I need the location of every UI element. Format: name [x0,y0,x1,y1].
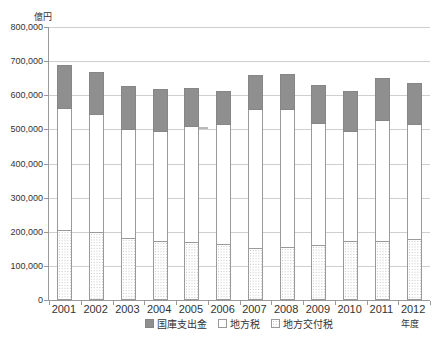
x-axis-year-label: 2006 [205,303,241,315]
bar-segment-white [184,127,199,243]
x-axis-year-label: 2003 [109,303,145,315]
x-axis-year-label: 2007 [236,303,272,315]
x-axis-year-label: 2004 [141,303,177,315]
bar-segment-hatch [57,231,72,300]
gridline [49,232,430,233]
bar-segment-white [216,125,231,245]
gridline [49,129,430,130]
bar-segment-white [153,132,168,242]
bar-segment-gray [343,91,358,132]
legend-item-hatch: 地方交付税 [271,316,333,331]
bar-2008 [280,74,295,300]
bar-2012 [407,83,422,300]
bar-segment-gray [57,65,72,109]
bar-segment-hatch [184,243,199,300]
bar-2003 [121,86,136,300]
legend: 国庫支出金地方税地方交付税 [48,316,429,331]
x-axis-year-label: 2011 [363,303,399,315]
bar-segment-gray [89,72,104,115]
bar-segment-white [248,110,263,249]
bar-segment-white [343,132,358,242]
bar-2006 [216,91,231,300]
y-axis-tick-label: 800,000 [0,22,43,33]
x-axis-year-label: 2009 [300,303,336,315]
y-axis-tick-label: 300,000 [0,193,43,204]
x-axis-year-label: 2008 [268,303,304,315]
bar-segment-hatch [121,239,136,300]
bar-segment-gray [311,85,326,123]
bar-segment-white [121,130,136,239]
x-axis-year-label: 2001 [46,303,82,315]
legend-item-gray: 国庫支出金 [145,316,207,331]
bar-segment-white [280,110,295,248]
bar-2004 [153,89,168,300]
bar-2009 [311,85,326,300]
bar-segment-hatch [407,240,422,300]
bar-segment-gray [375,78,390,121]
x-axis-year-label: 2012 [395,303,431,315]
bar-segment-white [311,124,326,246]
bar-2007 [248,75,263,300]
bar-2002 [89,72,104,300]
bar-segment-gray [216,91,231,125]
legend-label: 国庫支出金 [157,316,207,331]
gridline [49,198,430,199]
gridline [49,27,430,28]
bar-segment-hatch [216,245,231,300]
legend-label: 地方税 [230,316,260,331]
bar-segment-gray [153,89,168,131]
bar-segment-hatch [153,242,168,300]
y-axis-tick-label: 100,000 [0,261,43,272]
x-axis-year-label: 2010 [332,303,368,315]
x-axis-year-label: 2002 [78,303,114,315]
y-axis-tick-label: 200,000 [0,227,43,238]
legend-swatch-white [218,319,227,328]
gridline [49,266,430,267]
bar-segment-gray [184,88,199,127]
x-axis-year-label: 2005 [173,303,209,315]
bar-segment-hatch [343,242,358,300]
bar-2011 [375,78,390,300]
bar-segment-gray [248,75,263,109]
bar-segment-hatch [375,242,390,300]
bar-segment-white [89,115,104,233]
legend-swatch-hatch [271,319,280,328]
bar-2010 [343,91,358,300]
bar-segment-hatch [89,233,104,300]
bar-segment-gray [407,83,422,125]
bar-segment-white [375,121,390,242]
y-axis-tick-label: 700,000 [0,56,43,67]
y-axis-tick-label: 400,000 [0,159,43,170]
bar-segment-gray [280,74,295,110]
bar-segment-hatch [311,246,326,300]
bar-segment-hatch [248,249,263,300]
bar-segment-white [57,109,72,230]
legend-label: 地方交付税 [283,316,333,331]
gridline [49,164,430,165]
y-axis-tick-label: 0 [0,295,43,306]
bar-2001 [57,65,72,300]
bar-segment-hatch [280,248,295,300]
y-axis-tick-label: 600,000 [0,90,43,101]
bar-segment-white [407,125,422,240]
legend-item-white: 地方税 [218,316,260,331]
bar-2005 [184,88,199,300]
plot-area [48,27,430,301]
gridline [49,95,430,96]
stacked-bar-chart: 億円 0100,000200,000300,000400,000500,0006… [0,0,432,344]
legend-swatch-gray [145,319,154,328]
scan-artifact [199,127,208,129]
bar-segment-gray [121,86,136,130]
y-axis-tick-label: 500,000 [0,124,43,135]
gridline [49,61,430,62]
